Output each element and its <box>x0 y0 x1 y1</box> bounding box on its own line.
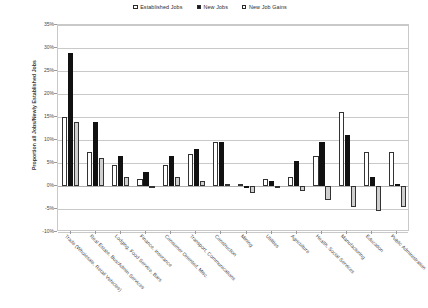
y-tick-label: 35% <box>24 21 54 27</box>
y-tick-label: 20% <box>24 90 54 96</box>
bar <box>194 149 199 186</box>
y-tick-label: -10% <box>24 228 54 234</box>
bar <box>395 184 400 186</box>
bar <box>351 186 356 207</box>
bar <box>112 165 117 186</box>
bar <box>62 117 67 186</box>
x-tick-mark <box>246 231 247 234</box>
x-tick-mark <box>145 231 146 234</box>
x-axis-label: Lodging, Food Service, Bars <box>114 233 164 283</box>
bar <box>143 172 148 186</box>
x-tick-mark <box>296 231 297 234</box>
bar <box>175 177 180 186</box>
bar <box>213 142 218 186</box>
bar <box>319 142 324 186</box>
legend-item-1[interactable]: New Jobs <box>197 4 228 10</box>
bar <box>99 158 104 186</box>
bar <box>188 154 193 186</box>
x-axis-label: Utilities <box>264 233 280 249</box>
x-tick-mark <box>321 231 322 234</box>
y-tick-label: 25% <box>24 67 54 73</box>
y-tick-label: 30% <box>24 44 54 50</box>
x-tick-mark <box>396 231 397 234</box>
bar <box>137 179 142 186</box>
bar <box>163 165 168 186</box>
y-tick-label: -5% <box>24 205 54 211</box>
bar <box>294 161 299 186</box>
x-axis-label: Construction <box>214 233 239 258</box>
bar <box>244 186 249 188</box>
legend-item-2[interactable]: New Job Gains <box>242 4 287 10</box>
gridline <box>58 48 408 49</box>
legend-swatch-icon <box>133 5 138 10</box>
x-tick-mark <box>120 231 121 234</box>
bar <box>401 186 406 207</box>
legend-swatch-icon <box>242 5 247 10</box>
bar <box>339 112 344 186</box>
x-axis-label: Manufacturing <box>340 233 367 260</box>
x-axis-label: Mining <box>239 233 254 248</box>
bar <box>376 186 381 211</box>
bar <box>118 156 123 186</box>
bar <box>288 177 293 186</box>
gridline <box>58 117 408 118</box>
y-tick-label: 0% <box>24 182 54 188</box>
x-tick-mark <box>271 231 272 234</box>
legend-swatch-icon <box>197 5 202 10</box>
bar <box>250 186 255 193</box>
x-axis-label: Education <box>365 233 385 253</box>
x-axis-label: Transport, Communications <box>189 233 237 281</box>
bar <box>169 156 174 186</box>
legend-label: New Jobs <box>204 4 228 10</box>
gridline <box>58 209 408 210</box>
bar <box>345 135 350 186</box>
bar <box>263 179 268 186</box>
bar <box>74 122 79 186</box>
bar <box>389 152 394 187</box>
x-tick-mark <box>371 231 372 234</box>
bar <box>238 184 243 186</box>
bar <box>370 177 375 186</box>
x-axis-label: Public Administration <box>390 233 428 271</box>
x-axis-label: Consumer Oriented, Misc. <box>164 233 210 279</box>
plot-area <box>57 24 409 231</box>
gridline <box>58 94 408 95</box>
chart-legend: Established JobsNew JobsNew Job Gains <box>0 4 420 10</box>
bar <box>364 152 369 187</box>
bar <box>219 142 224 186</box>
x-tick-mark <box>220 231 221 234</box>
bar <box>93 122 98 186</box>
bar <box>269 181 274 186</box>
x-tick-mark <box>95 231 96 234</box>
gridline <box>58 71 408 72</box>
x-tick-mark <box>70 231 71 234</box>
gridline <box>58 163 408 164</box>
x-tick-mark <box>346 231 347 234</box>
x-tick-mark <box>170 231 171 234</box>
bar <box>275 186 280 188</box>
y-tick-label: 5% <box>24 159 54 165</box>
gridline <box>58 25 408 26</box>
legend-item-0[interactable]: Established Jobs <box>133 4 182 10</box>
y-tick-label: 10% <box>24 136 54 142</box>
bar <box>325 186 330 200</box>
x-axis-label: Agriculture <box>290 233 312 255</box>
x-axis-labels: Trade (Wholesale, Retail Vehicles)Real E… <box>57 231 409 308</box>
bar <box>124 177 129 186</box>
bar <box>300 186 305 191</box>
bar <box>225 184 230 186</box>
x-tick-mark <box>195 231 196 234</box>
bar <box>313 156 318 186</box>
y-tick-label: 15% <box>24 113 54 119</box>
legend-label: Established Jobs <box>140 4 182 10</box>
gridline <box>58 140 408 141</box>
bar <box>87 152 92 187</box>
bar <box>149 186 154 188</box>
legend-label: New Job Gains <box>249 4 287 10</box>
bar <box>200 181 205 186</box>
bar <box>68 53 73 186</box>
